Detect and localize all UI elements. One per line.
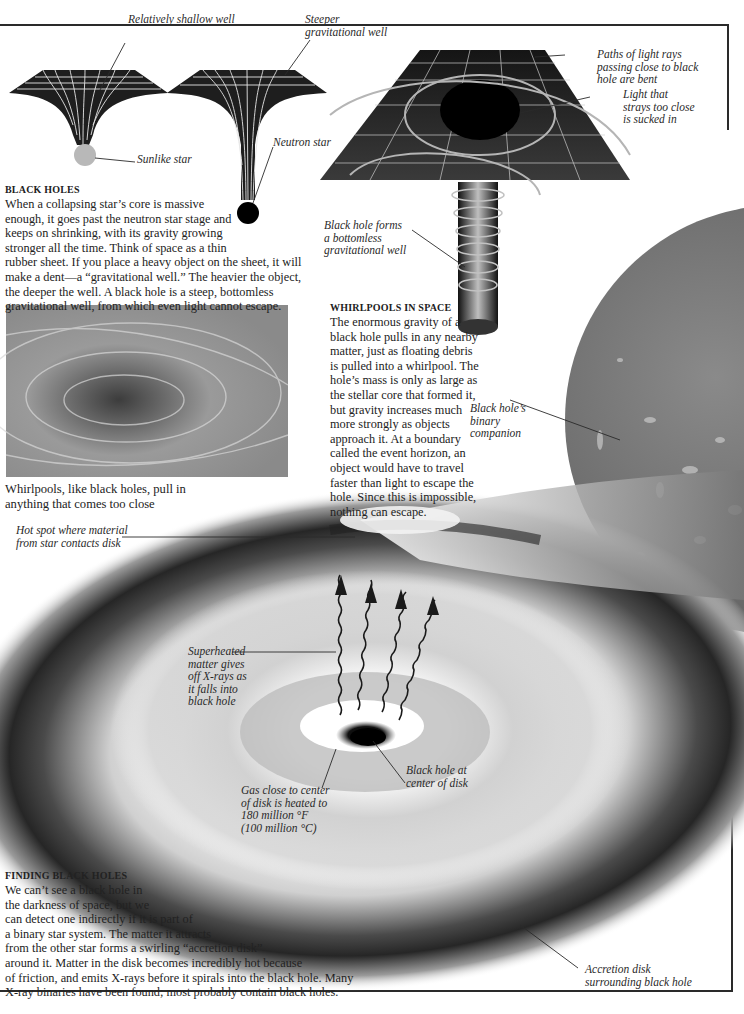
label-light-paths: Paths of light rays passing close to bla…: [597, 48, 698, 86]
whirlpool-caption: Whirlpools, like black holes, pull in an…: [5, 482, 186, 511]
shallow-well-diagram: [5, 65, 175, 185]
label-gas-temperature: Gas close to center of disk is heated to…: [241, 784, 329, 834]
label-light-sucked-in: Light that strays too close is sucked in: [623, 88, 695, 126]
body-black-holes: When a collapsing star’s core is massive…: [5, 197, 335, 314]
label-shallow-well: Relatively shallow well: [128, 13, 235, 26]
label-sunlike-star: Sunlike star: [137, 153, 192, 166]
label-binary-companion: Black hole’s binary companion: [470, 402, 526, 440]
label-black-hole-center: Black hole at center of disk: [406, 764, 468, 789]
black-hole-well-diagram: [330, 45, 620, 345]
label-hot-spot: Hot spot where material from star contac…: [16, 524, 128, 549]
label-neutron-star: Neutron star: [273, 136, 331, 149]
whirlpool-photo: [6, 305, 288, 477]
body-finding-black-holes: We can’t see a black hole in the darknes…: [5, 883, 485, 1000]
sunlike-star: [74, 144, 96, 166]
label-steeper-well: Steeper gravitational well: [305, 13, 387, 38]
heading-finding-black-holes: FINDING BLACK HOLES: [5, 870, 127, 881]
label-accretion-disk: Accretion disk surrounding black hole: [585, 963, 692, 988]
body-whirlpools: The enormous gravity of a black hole pul…: [330, 315, 490, 519]
label-xrays: Superheated matter gives off X-rays as i…: [188, 645, 247, 708]
heading-black-holes: BLACK HOLES: [5, 184, 80, 195]
label-bottomless-well: Black hole forms a bottomless gravitatio…: [324, 219, 406, 257]
heading-whirlpools: WHIRLPOOLS IN SPACE: [330, 302, 451, 313]
